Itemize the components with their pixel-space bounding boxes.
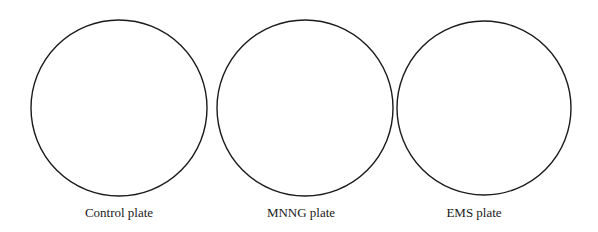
control-plate-label: Control plate <box>85 205 153 220</box>
plate-ems: EMS plate <box>397 21 571 220</box>
mnng-plate-label: MNNG plate <box>267 205 335 220</box>
mnng-plate-circle <box>217 20 393 196</box>
plates-diagram: Control plate MNNG plate EMS plate <box>0 0 598 232</box>
ems-plate-label: EMS plate <box>446 205 501 220</box>
plate-mnng: MNNG plate <box>217 20 393 220</box>
plate-control: Control plate <box>31 20 207 220</box>
control-plate-circle <box>31 20 207 196</box>
ems-plate-circle <box>397 21 571 195</box>
